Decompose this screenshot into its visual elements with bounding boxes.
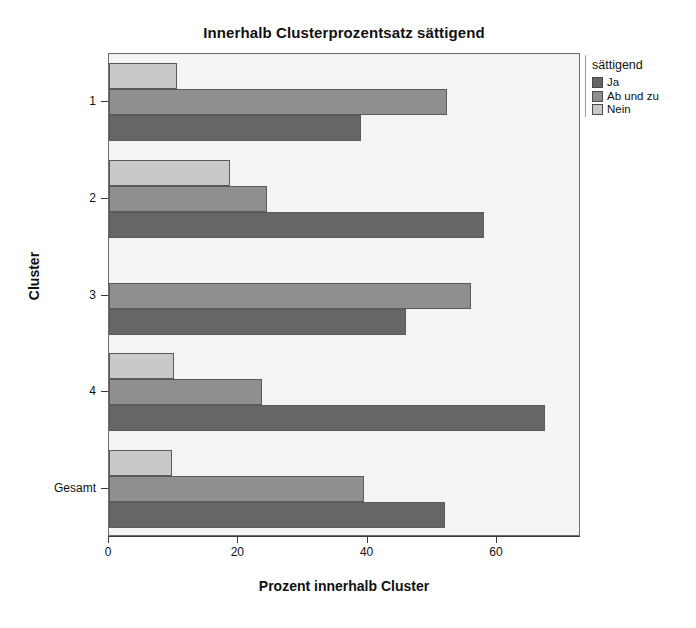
bar-3-ja — [109, 309, 406, 335]
legend-entry-ab-und-zu[interactable]: Ab und zu — [592, 91, 692, 103]
bar-gesamt-nein — [109, 450, 172, 476]
bar-gesamt-ja — [109, 502, 445, 528]
chart-title: Innerhalb Clusterprozentsatz sättigend — [108, 24, 580, 41]
bar-1-nein — [109, 63, 177, 89]
legend-label: Ab und zu — [607, 91, 659, 103]
y-tick-2 — [101, 198, 108, 199]
x-tick-0 — [108, 536, 109, 543]
y-tick-4 — [101, 391, 108, 392]
y-tick-gesamt — [101, 488, 108, 489]
legend-label: Ja — [607, 77, 619, 89]
y-tick-1 — [101, 101, 108, 102]
legend: sättigend JaAb und zuNein — [592, 58, 692, 118]
bars-container — [109, 54, 579, 535]
x-tick-60 — [496, 536, 497, 543]
y-tick-label-3: 3 — [0, 288, 96, 302]
bar-4-ja — [109, 405, 545, 431]
bar-2-ja — [109, 212, 484, 238]
legend-entry-ja[interactable]: Ja — [592, 77, 692, 89]
x-tick-20 — [237, 536, 238, 543]
bar-4-nein — [109, 353, 174, 379]
bar-1-ab-und-zu — [109, 89, 447, 115]
plot-area — [108, 53, 580, 536]
bar-4-ab-und-zu — [109, 379, 262, 405]
legend-label: Nein — [607, 104, 631, 116]
legend-entries: JaAb und zuNein — [592, 77, 692, 116]
y-tick-label-1: 1 — [0, 94, 96, 108]
x-tick-label-60: 60 — [489, 545, 502, 559]
y-tick-3 — [101, 295, 108, 296]
legend-swatch-ab-und-zu-icon — [592, 91, 603, 102]
legend-divider — [585, 55, 586, 117]
bar-1-ja — [109, 115, 361, 141]
bar-2-nein — [109, 160, 230, 186]
legend-swatch-ja-icon — [592, 77, 603, 88]
bar-2-ab-und-zu — [109, 186, 267, 212]
x-axis-line — [108, 536, 580, 537]
y-tick-label-4: 4 — [0, 384, 96, 398]
y-tick-label-2: 2 — [0, 191, 96, 205]
legend-swatch-nein-icon — [592, 104, 603, 115]
x-tick-label-0: 0 — [105, 545, 112, 559]
legend-entry-nein[interactable]: Nein — [592, 104, 692, 116]
y-axis-label: Cluster — [26, 206, 42, 346]
x-tick-label-40: 40 — [360, 545, 373, 559]
x-axis-label: Prozent innerhalb Cluster — [108, 578, 580, 594]
bar-3-ab-und-zu — [109, 283, 471, 309]
x-tick-label-20: 20 — [231, 545, 244, 559]
legend-title: sättigend — [592, 58, 692, 72]
bar-gesamt-ab-und-zu — [109, 476, 364, 502]
y-tick-label-gesamt: Gesamt — [0, 481, 96, 495]
x-tick-40 — [367, 536, 368, 543]
